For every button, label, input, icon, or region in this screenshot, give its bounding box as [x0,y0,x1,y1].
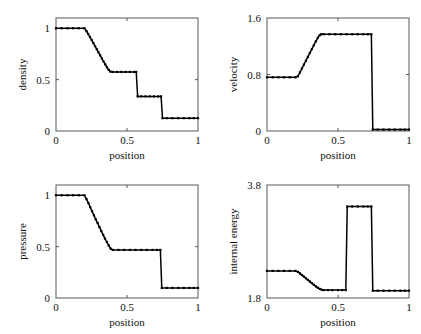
y-tick-label: 0.8 [247,69,261,81]
data-point-marker [129,71,131,73]
data-point-marker [404,290,406,292]
y-tick-label: 0.5 [36,74,50,86]
data-point-marker [123,249,125,251]
data-point-marker [55,194,57,196]
data-point-marker [151,249,153,251]
data-point-marker [120,71,122,73]
data-point-marker [100,230,102,232]
x-tick-label: 0 [53,134,59,146]
data-point-marker [294,270,296,272]
data-point-marker [106,241,108,243]
data-point-marker [337,289,339,291]
x-tick-label: 0 [264,134,270,146]
x-tick-label: 0.5 [120,301,134,313]
y-axis-title: velocity [227,56,239,92]
data-point-marker [153,95,155,97]
data-point-marker [297,271,299,273]
data-point-marker [188,287,190,289]
data-point-marker [66,194,68,196]
data-point-marker [266,76,268,78]
data-point-marker [283,270,285,272]
data-point-marker [91,39,93,41]
data-point-marker [110,248,112,250]
data-point-marker [323,289,325,291]
x-axis-title: position [320,149,356,161]
data-point-marker [140,95,142,97]
data-point-marker [92,42,94,44]
data-point-marker [177,287,179,289]
data-point-marker [193,117,195,119]
data-point-marker [124,71,126,73]
data-point-marker [372,128,374,130]
data-point-marker [108,244,110,246]
data-point-marker [78,27,80,29]
data-point-marker [408,290,410,292]
x-axis-title: position [109,316,145,328]
x-tick-label: 1 [406,301,412,313]
y-tick-label: 0 [256,125,262,137]
plot-frame [56,185,198,298]
data-point-marker [357,205,359,207]
data-point-marker [95,218,97,220]
data-point-marker [404,128,406,130]
data-point-marker [303,276,305,278]
data-point-marker [102,60,104,62]
data-point-marker [307,279,309,281]
data-point-marker [156,249,158,251]
data-point-marker [299,272,301,274]
data-point-marker [112,249,114,251]
y-tick-label: 1 [45,189,51,201]
data-point-marker [188,117,190,119]
data-point-marker [97,51,99,53]
data-point-marker [161,117,163,119]
data-point-marker [331,289,333,291]
data-point-marker [116,71,118,73]
data-point-marker [303,64,305,66]
data-point-marker [193,287,195,289]
data-point-marker [149,95,151,97]
data-point-marker [117,249,119,251]
data-point-marker [78,194,80,196]
data-point-marker [109,71,111,73]
data-point-marker [367,205,369,207]
data-point-marker [311,48,313,50]
y-tick-label: 1.6 [247,12,261,24]
data-point-marker [91,210,93,212]
data-point-marker [394,290,396,292]
plot-density: 00.5100.51positiondensity [0,0,210,167]
data-point-marker [85,198,87,200]
data-point-marker [351,205,353,207]
data-point-marker [362,205,364,207]
data-point-marker [297,75,299,77]
x-tick-label: 0 [53,301,59,313]
x-tick-label: 0.5 [331,301,345,313]
data-point-marker [382,128,384,130]
data-point-marker [377,290,379,292]
data-point-marker [61,27,63,29]
data-point-marker [277,76,279,78]
data-point-marker [177,117,179,119]
data-point-marker [328,33,330,35]
data-point-marker [357,33,359,35]
data-point-marker [399,290,401,292]
data-point-marker [272,76,274,78]
data-point-marker [197,117,199,119]
data-point-marker [129,249,131,251]
data-point-marker [137,95,139,97]
data-point-marker [83,27,85,29]
data-point-marker [388,290,390,292]
data-point-marker [367,33,369,35]
data-curve [267,206,409,290]
data-point-marker [157,95,159,97]
panel-velocity: 00.5100.81.6positionvelocity [211,0,421,167]
data-point-marker [289,76,291,78]
data-point-marker [197,287,199,289]
data-point-marker [341,289,343,291]
data-point-marker [289,270,291,272]
data-point-marker [96,48,98,50]
data-point-marker [102,234,104,236]
data-point-marker [327,289,329,291]
data-point-marker [313,44,315,46]
data-point-marker [408,128,410,130]
plot-velocity: 00.5100.81.6positionvelocity [211,0,421,167]
